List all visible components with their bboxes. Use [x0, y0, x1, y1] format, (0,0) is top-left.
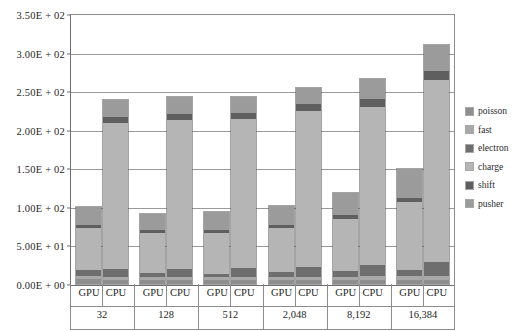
axis-cell-separator — [134, 284, 135, 329]
bar-segment-charge — [231, 119, 256, 268]
legend-item: electron — [466, 139, 528, 158]
legend-item: poisson — [466, 102, 528, 121]
bar-cpu-512 — [231, 97, 256, 284]
axis-sub-label-gpu: GPU — [76, 287, 102, 298]
bar-segment-charge — [103, 123, 128, 270]
axis-sub-label-cpu: CPU — [360, 287, 386, 298]
legend: poissonfastelectronchargeshiftpusher — [466, 102, 528, 213]
legend-swatch-icon — [466, 108, 473, 115]
bar-segment-pusher — [103, 100, 128, 116]
axis-sub-label-gpu: GPU — [140, 287, 166, 298]
axis-sub-label-cpu: CPU — [424, 287, 450, 298]
bar-group — [391, 14, 455, 284]
legend-swatch-icon — [466, 145, 473, 152]
legend-swatch-icon — [466, 126, 473, 133]
axis-group-label: 512 — [198, 309, 262, 320]
bars-layer — [70, 14, 455, 284]
legend-item: charge — [466, 158, 528, 177]
category-axis: GPUCPU32GPUCPU128GPUCPU512GPUCPU2,048GPU… — [70, 284, 455, 331]
bar-segment-pusher — [296, 88, 321, 103]
bar-segment-pusher — [333, 193, 358, 215]
y-axis-tick-label: 3.00E + 02 — [17, 48, 71, 59]
bar-segment-pusher — [397, 169, 422, 198]
bar-segment-pusher — [204, 212, 229, 229]
bar-segment-charge — [167, 120, 192, 268]
y-axis-tick-label: 5.00E + 01 — [17, 241, 71, 252]
legend-label: fast — [478, 125, 492, 135]
axis-group-label: 32 — [70, 309, 134, 320]
bar-gpu-128 — [140, 214, 165, 284]
axis-cell-separator — [263, 284, 264, 329]
y-axis-tick-label: 0.00E + 00 — [17, 280, 71, 291]
legend-item: fast — [466, 121, 528, 140]
y-axis-tick-label: 3.50E + 02 — [17, 10, 71, 21]
legend-swatch-icon — [466, 182, 473, 189]
bar-segment-electron — [360, 265, 385, 277]
bar-segment-charge — [333, 219, 358, 271]
legend-label: electron — [478, 143, 509, 153]
y-axis-tick-label: 1.50E + 02 — [17, 164, 71, 175]
bar-segment-electron — [167, 269, 192, 277]
bar-segment-charge — [360, 107, 385, 265]
axis-sub-label-gpu: GPU — [397, 287, 423, 298]
axis-group-label: 2,048 — [263, 309, 327, 320]
bar-segment-electron — [424, 262, 449, 276]
axis-sub-label-cpu: CPU — [231, 287, 257, 298]
bar-segment-pusher — [231, 97, 256, 113]
legend-swatch-icon — [466, 200, 473, 207]
bar-cpu-16384 — [424, 45, 449, 284]
legend-label: shift — [478, 180, 495, 190]
legend-label: charge — [478, 162, 503, 172]
bar-gpu-8192 — [333, 193, 358, 284]
y-axis-tick-label: 1.00E + 02 — [17, 202, 71, 213]
legend-label: poisson — [478, 106, 507, 116]
axis-cell-separator — [454, 284, 455, 329]
bar-segment-charge — [204, 233, 229, 274]
axis-group-label: 16,384 — [391, 309, 455, 320]
legend-label: pusher — [478, 199, 503, 209]
legend-item: shift — [466, 176, 528, 195]
bar-segment-electron — [296, 267, 321, 277]
bar-group — [263, 14, 327, 284]
bar-segment-pusher — [269, 206, 294, 225]
axis-group-label: 128 — [134, 309, 198, 320]
bar-cpu-2048 — [296, 88, 321, 284]
bar-cpu-128 — [167, 97, 192, 284]
bar-gpu-512 — [204, 212, 229, 284]
bar-segment-pusher — [360, 79, 385, 99]
bar-segment-charge — [397, 202, 422, 270]
y-axis-tick-label: 2.50E + 02 — [17, 87, 71, 98]
bar-segment-shift — [424, 71, 449, 80]
axis-sub-label-gpu: GPU — [269, 287, 295, 298]
bar-group — [70, 14, 134, 284]
bar-gpu-16384 — [397, 169, 422, 284]
axis-cell-separator — [391, 284, 392, 329]
axis-sub-label-cpu: CPU — [167, 287, 193, 298]
bar-cpu-32 — [103, 100, 128, 284]
bar-segment-charge — [269, 228, 294, 272]
bar-segment-pusher — [424, 45, 449, 71]
bar-group — [134, 14, 198, 284]
bar-cpu-8192 — [360, 79, 385, 284]
bar-segment-pusher — [76, 207, 101, 225]
axis-sub-label-gpu: GPU — [333, 287, 359, 298]
axis-group-label: 8,192 — [327, 309, 391, 320]
axis-sub-label-cpu: CPU — [103, 287, 129, 298]
bar-segment-shift — [360, 99, 385, 107]
bar-segment-shift — [296, 104, 321, 111]
legend-item: pusher — [466, 195, 528, 214]
bar-segment-pusher — [140, 214, 165, 230]
bar-gpu-32 — [76, 207, 101, 284]
bar-segment-charge — [140, 233, 165, 273]
y-axis-tick-label: 2.00E + 02 — [17, 125, 71, 136]
legend-swatch-icon — [466, 163, 473, 170]
bar-segment-charge — [76, 228, 101, 270]
axis-cell-separator — [327, 284, 328, 329]
bar-segment-electron — [103, 269, 128, 277]
bar-segment-charge — [296, 111, 321, 267]
bar-segment-charge — [424, 80, 449, 261]
axis-cell-separator — [70, 284, 71, 329]
stacked-bar-chart: 3.50E + 023.00E + 022.50E + 022.00E + 02… — [0, 0, 530, 331]
bar-segment-pusher — [167, 97, 192, 114]
bar-segment-electron — [231, 268, 256, 277]
